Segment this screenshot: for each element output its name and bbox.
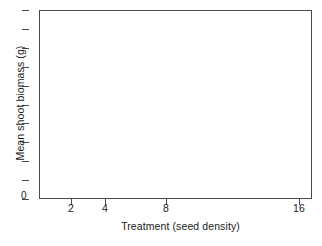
y-axis-title: Mean shoot biomass (g) <box>14 23 26 183</box>
x-axis-tick-label: 8 <box>163 203 169 214</box>
chart-figure: 0 Mean shoot biomass (g) Treatment (seed… <box>0 0 322 246</box>
plot-data-area <box>40 11 311 198</box>
y-axis-tick <box>22 10 29 11</box>
plot-frame <box>39 10 312 199</box>
x-axis-title: Treatment (seed density) <box>0 220 322 232</box>
x-axis-tick-group <box>0 199 322 211</box>
x-axis-tick-label: 16 <box>293 203 305 214</box>
x-axis-tick-label: 2 <box>68 203 74 214</box>
y-axis-zero-tick-label: 0 <box>21 191 27 201</box>
x-axis-tick-label: 4 <box>102 203 108 214</box>
